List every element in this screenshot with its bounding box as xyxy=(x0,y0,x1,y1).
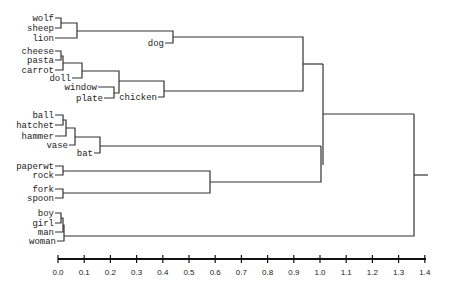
leaf-label-woman: woman xyxy=(29,237,56,247)
leaf-label-spoon: spoon xyxy=(27,194,54,204)
x-tick-label: 0.6 xyxy=(210,268,222,277)
x-tick-label: 0.2 xyxy=(105,268,117,277)
x-tick-label: 0.8 xyxy=(262,268,274,277)
x-tick-label: 1.0 xyxy=(314,268,326,277)
leaf-label-bat: bat xyxy=(77,149,93,159)
x-tick-label: 0.1 xyxy=(79,268,91,277)
x-tick-label: 1.3 xyxy=(393,268,405,277)
x-tick-label: 0.7 xyxy=(236,268,248,277)
leaf-label-vase: vase xyxy=(46,141,68,151)
leaf-labels: wolfsheepliondogcheesepastacarrotdollwin… xyxy=(16,14,164,247)
x-tick-label: 0.4 xyxy=(157,268,169,277)
leaf-label-hatchet: hatchet xyxy=(16,121,54,131)
leaf-label-pasta: pasta xyxy=(27,56,55,66)
x-tick-label: 0.5 xyxy=(183,268,195,277)
leaf-label-ball: ball xyxy=(32,111,54,121)
leaf-label-chicken: chicken xyxy=(119,93,157,103)
dendrogram-chart: wolfsheepliondogcheesepastacarrotdollwin… xyxy=(0,0,455,290)
x-tick-label: 0.3 xyxy=(131,268,143,277)
leaf-label-lion: lion xyxy=(32,34,54,44)
x-tick-label: 1.1 xyxy=(341,268,353,277)
leaf-label-window: window xyxy=(65,83,98,93)
leaf-label-plate: plate xyxy=(76,94,103,104)
leaf-label-sheep: sheep xyxy=(27,24,54,34)
leaf-label-wolf: wolf xyxy=(32,14,54,24)
x-tick-label: 1.2 xyxy=(367,268,379,277)
leaf-label-rock: rock xyxy=(32,171,54,181)
dendrogram-links xyxy=(55,18,428,241)
x-tick-label: 0.0 xyxy=(52,268,64,277)
leaf-label-dog: dog xyxy=(148,39,164,49)
x-tick-label: 0.9 xyxy=(288,268,300,277)
leaf-label-boy: boy xyxy=(38,209,55,219)
x-tick-label: 1.4 xyxy=(419,268,431,277)
